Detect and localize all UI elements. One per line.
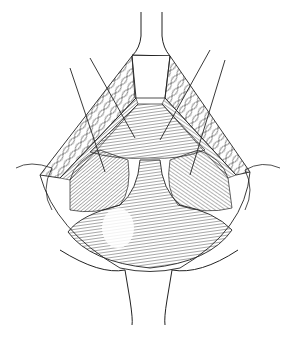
illustration-svg [0, 0, 294, 340]
retractor-blade-top [132, 12, 170, 98]
surgical-illustration [0, 0, 294, 340]
